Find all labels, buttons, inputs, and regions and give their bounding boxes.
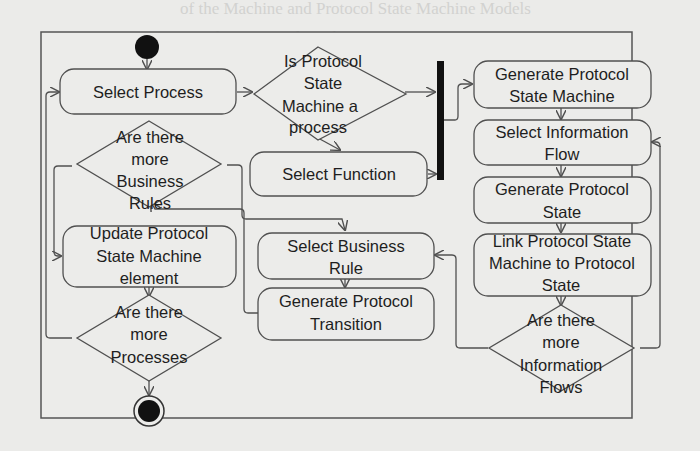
initial-node	[135, 35, 159, 59]
label: more	[130, 325, 168, 343]
action-update-psm-element: Update Protocol State Machine element	[63, 224, 236, 287]
label: Flows	[539, 378, 582, 396]
label: Select Process	[93, 83, 203, 101]
label: Are there	[527, 311, 595, 329]
label: Machine a	[282, 97, 359, 115]
label: Rule	[329, 259, 363, 277]
label: more	[542, 333, 580, 351]
label: Generate Protocol	[495, 180, 629, 198]
fork-bar	[437, 61, 444, 180]
label: Machine to Protocol	[489, 254, 635, 272]
action-select-function: Select Function	[250, 152, 427, 196]
label: Are there	[116, 128, 184, 146]
label: Update Protocol	[90, 224, 208, 242]
action-generate-psm: Generate Protocol State Machine	[474, 61, 651, 108]
label: State	[542, 276, 581, 294]
label: Business	[117, 172, 184, 190]
label: process	[289, 118, 347, 136]
label: Select Function	[282, 165, 396, 183]
action-generate-protocol-transition: Generate Protocol Transition	[258, 288, 434, 340]
label: Link Protocol State	[493, 232, 632, 250]
action-link-psm-to-state: Link Protocol State Machine to Protocol …	[474, 232, 651, 296]
label: Generate Protocol	[495, 65, 629, 83]
label: Select Information	[496, 123, 629, 141]
activity-diagram: Select Process Is Protocol State Machine…	[0, 0, 700, 451]
label: Flow	[545, 145, 580, 163]
label: State	[304, 74, 343, 92]
label: Transition	[310, 315, 382, 333]
label: Select Business	[287, 237, 404, 255]
label: State Machine	[509, 87, 614, 105]
action-generate-protocol-state: Generate Protocol State	[474, 177, 651, 223]
label: Are there	[115, 303, 183, 321]
label: Is Protocol	[284, 52, 362, 70]
action-select-information-flow: Select Information Flow	[474, 120, 651, 165]
label: Processes	[110, 348, 187, 366]
label: more	[131, 150, 169, 168]
label: State Machine	[96, 247, 201, 265]
label: Rules	[129, 194, 171, 212]
action-select-business-rule: Select Business Rule	[258, 233, 434, 279]
final-node	[134, 396, 164, 426]
label: Information	[520, 356, 603, 374]
label: State	[543, 203, 582, 221]
label: element	[120, 269, 179, 287]
label: Generate Protocol	[279, 292, 413, 310]
action-select-process: Select Process	[60, 69, 236, 114]
